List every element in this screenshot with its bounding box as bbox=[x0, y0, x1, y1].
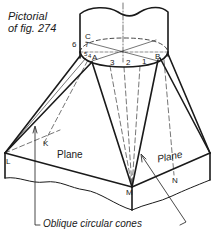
label-b: B bbox=[155, 53, 160, 61]
label-2: 2 bbox=[126, 59, 130, 67]
leader-left bbox=[35, 128, 40, 225]
break-line-right bbox=[132, 180, 210, 210]
title-line-1: Pictorial bbox=[8, 10, 56, 22]
label-n: N bbox=[172, 177, 178, 185]
label-a: A bbox=[92, 54, 97, 62]
label-m: M bbox=[126, 189, 133, 197]
label-6: 6 bbox=[72, 41, 76, 49]
figure-title: Pictorial of fig. 274 bbox=[8, 10, 56, 34]
figure-caption: Oblique circular cones bbox=[43, 219, 142, 229]
label-1: 1 bbox=[142, 58, 146, 66]
label-5: 5 bbox=[84, 51, 87, 57]
label-c: C bbox=[85, 33, 91, 41]
title-line-2: of fig. 274 bbox=[8, 22, 56, 34]
label-4: 4 bbox=[88, 53, 91, 59]
label-plane-left: Plane bbox=[57, 150, 83, 160]
label-l: L bbox=[6, 158, 10, 166]
label-7: 7 bbox=[85, 41, 89, 48]
label-k: K bbox=[43, 140, 48, 148]
label-3: 3 bbox=[110, 59, 114, 67]
transition-piece-drawing bbox=[0, 0, 215, 233]
